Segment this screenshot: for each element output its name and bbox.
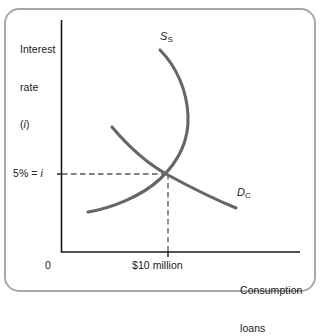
- y-axis-label-line2: rate: [20, 81, 55, 94]
- y-axis-label: Interest rate (i): [20, 18, 55, 156]
- supply-curve-label-subscript: S: [167, 35, 172, 44]
- demand-curve-label: DC: [237, 186, 251, 203]
- demand-curve-label-subscript: C: [245, 191, 251, 200]
- demand-curve-Dc: [112, 127, 236, 208]
- y-axis-label-line1: Interest: [20, 43, 55, 56]
- x-axis-label-line1: Consumption: [240, 284, 302, 297]
- x-axis-tick-label-equilibrium: $10 million: [132, 259, 183, 272]
- demand-curve-label-main: D: [237, 186, 245, 198]
- x-axis-label: Consumption loans: [240, 259, 302, 336]
- y-tick-variable: i: [40, 167, 42, 179]
- x-axis-label-line2: loans: [240, 322, 302, 335]
- y-axis-label-paren-close: ): [26, 118, 30, 130]
- supply-curve-label: SS: [160, 30, 173, 47]
- y-axis-label-line3: (i): [20, 118, 55, 131]
- y-axis-tick-label-equilibrium: 5% = i: [13, 167, 43, 180]
- supply-curve-Ss: [88, 50, 188, 212]
- y-tick-prefix: 5% =: [13, 167, 40, 179]
- origin-label: 0: [45, 259, 51, 272]
